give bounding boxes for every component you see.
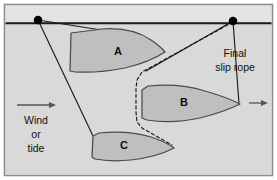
final-slip-rope-label-line2: slip rope	[215, 61, 255, 73]
bollard-right[interactable]	[229, 17, 238, 26]
vessel-label-b: B	[180, 96, 188, 108]
wind-tide-label-line3: tide	[28, 142, 45, 154]
vessel-label-c: C	[120, 139, 128, 151]
slip-rope-diagram: A B C Final slip rope Wind or tide	[0, 0, 277, 180]
diagram-root: A B C Final slip rope Wind or tide	[0, 0, 277, 180]
bollard-left[interactable]	[34, 16, 43, 25]
wind-tide-label-line1: Wind	[24, 114, 48, 126]
final-slip-rope-label-line1: Final	[224, 47, 247, 59]
vessel-label-a: A	[114, 45, 122, 57]
wind-tide-label-line2: or	[31, 128, 41, 140]
